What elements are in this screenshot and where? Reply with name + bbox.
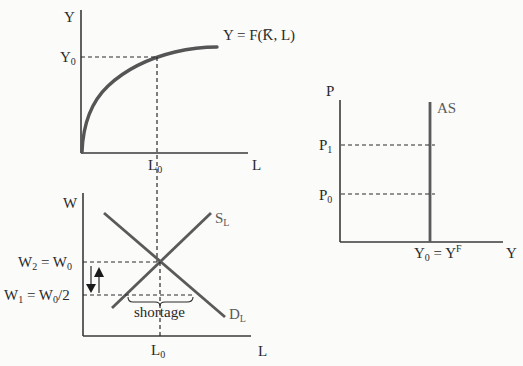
demand-label: DL bbox=[229, 306, 246, 324]
l-axis-label: L bbox=[258, 343, 267, 359]
w-axis-label: W bbox=[63, 195, 78, 211]
labor-demand-curve bbox=[104, 213, 225, 317]
y-output-axis-label: Y bbox=[506, 245, 517, 261]
up-arrow-icon bbox=[94, 267, 104, 277]
y-axis-label: Y bbox=[64, 9, 75, 25]
y0-tick-label: Y0 bbox=[60, 49, 76, 67]
aggregate-supply-panel: P Y AS P1 P0 Y0 = YF bbox=[319, 83, 517, 263]
x-axis-label: L bbox=[252, 157, 261, 173]
supply-label: SL bbox=[215, 210, 229, 228]
l0-tick-label: L0 bbox=[148, 157, 162, 175]
production-function-curve bbox=[82, 47, 217, 152]
l0-bottom-tick-label: L0 bbox=[151, 342, 165, 360]
labor-market-panel: W L shortage W2 = W0 W1 = W0/2 SL DL L0 bbox=[4, 193, 267, 360]
full-employment-output-label: Y0 = YF bbox=[414, 243, 462, 263]
wage-arrows bbox=[86, 266, 104, 293]
production-function-label: Y = F(K̅, L) bbox=[223, 27, 295, 44]
p0-tick-label: P0 bbox=[319, 187, 332, 205]
down-arrow-icon bbox=[86, 284, 96, 293]
w1-tick-label: W1 = W0/2 bbox=[4, 287, 70, 305]
as-label: AS bbox=[437, 100, 456, 116]
shortage-label: shortage bbox=[134, 304, 185, 320]
w2-tick-label: W2 = W0 bbox=[18, 254, 72, 272]
economics-diagram: Y L Y0 L0 Y = F(K̅, L) W L shortage W2 =… bbox=[0, 0, 523, 366]
p1-tick-label: P1 bbox=[319, 137, 332, 155]
production-function-panel: Y L Y0 L0 Y = F(K̅, L) bbox=[60, 9, 295, 262]
p-axis-label: P bbox=[326, 83, 334, 99]
